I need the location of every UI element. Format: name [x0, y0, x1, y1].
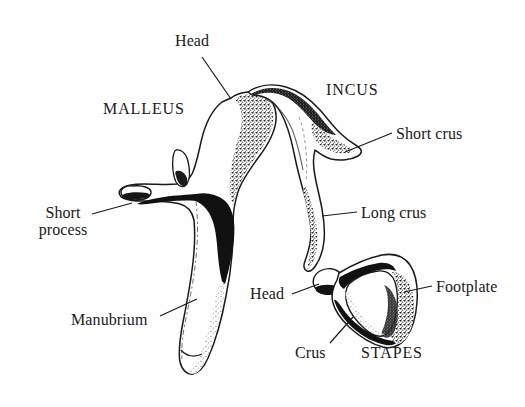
stapes-group	[313, 254, 417, 347]
leader-line-stapes-head	[292, 284, 319, 294]
leader-line-malleus-head	[202, 57, 231, 99]
label-crus: Crus	[295, 344, 326, 361]
label-stapes-head: Head	[250, 285, 284, 302]
label-short-process-line2: process	[33, 221, 93, 238]
leader-line-short-process	[92, 203, 132, 214]
malleus-group	[119, 92, 276, 374]
label-malleus: MALLEUS	[103, 100, 185, 117]
label-short-process: Short process	[33, 204, 93, 238]
label-incus: INCUS	[326, 81, 379, 98]
label-footplate: Footplate	[436, 278, 497, 295]
label-short-crus: Short crus	[396, 125, 462, 142]
label-manubrium: Manubrium	[71, 311, 147, 328]
leader-line-long-crus	[322, 212, 357, 216]
label-stapes: STAPES	[361, 344, 423, 361]
label-malleus-head: Head	[175, 32, 209, 49]
figure-container: Head MALLEUS INCUS Short crus Long crus …	[0, 0, 525, 407]
label-short-process-line1: Short	[33, 204, 93, 221]
leader-line-crus	[330, 317, 353, 343]
label-long-crus: Long crus	[361, 204, 426, 221]
